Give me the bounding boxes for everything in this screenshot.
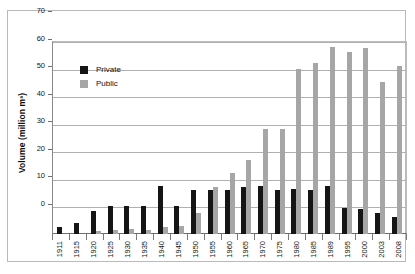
x-tick-mark [272, 234, 289, 240]
bar-public[interactable] [363, 48, 368, 234]
x-tick-label: 1950 [192, 241, 200, 258]
bar-group[interactable] [255, 41, 272, 234]
x-label-cell: 1935 [137, 241, 154, 271]
x-label-cell: 1960 [221, 241, 238, 271]
legend-item[interactable]: Public [80, 78, 121, 90]
bar-group[interactable] [338, 41, 355, 234]
x-tick-label: 1935 [141, 241, 149, 258]
bar-group[interactable] [204, 41, 221, 234]
x-tick-mark [356, 234, 373, 240]
y-tick-label-30: 30 [37, 118, 45, 126]
bar-group[interactable] [322, 41, 339, 234]
x-axis-labels: 1911191519201925193019351940194519501955… [52, 241, 407, 271]
x-tick-mark [205, 234, 222, 240]
x-tick-label: 1975 [276, 241, 284, 258]
bar-group[interactable] [238, 41, 255, 234]
chart-legend: PrivatePublic [80, 64, 121, 92]
bar-public[interactable] [296, 69, 301, 234]
x-tick-mark [373, 234, 390, 240]
bar-private[interactable] [57, 227, 62, 234]
bar-public[interactable] [179, 226, 184, 234]
bar-group[interactable] [388, 41, 405, 234]
legend-label: Private [96, 66, 121, 74]
x-tick-label: 1915 [74, 241, 82, 258]
bar-public[interactable] [280, 129, 285, 234]
legend-swatch-private [80, 66, 88, 74]
bar-group[interactable] [271, 41, 288, 234]
x-tick-label: 2000 [361, 241, 369, 258]
x-label-cell: 1965 [238, 241, 255, 271]
x-tick-label: 2008 [395, 241, 403, 258]
x-label-cell: 1940 [153, 241, 170, 271]
x-label-cell: 1915 [69, 241, 86, 271]
bar-group[interactable] [171, 41, 188, 234]
x-tick-mark [255, 234, 272, 240]
x-label-cell: 1925 [103, 241, 120, 271]
bar-group[interactable] [54, 41, 71, 234]
legend-label: Public [96, 80, 118, 88]
bar-public[interactable] [163, 227, 168, 234]
chart-figure: Volume (million m³) 010203040506070 1911… [0, 0, 415, 274]
x-label-cell: 2000 [356, 241, 373, 271]
x-tick-mark [87, 234, 104, 240]
x-tick-label: 1925 [107, 241, 115, 258]
x-tick-mark [171, 234, 188, 240]
x-label-cell: 2003 [373, 241, 390, 271]
chart-frame: Volume (million m³) 010203040506070 1911… [7, 10, 406, 262]
x-label-cell: 1970 [255, 241, 272, 271]
x-tick-label: 1911 [57, 241, 65, 257]
bar-group[interactable] [138, 41, 155, 234]
x-label-cell: 1955 [204, 241, 221, 271]
x-tick-label: 1965 [243, 241, 251, 258]
x-tick-label: 1940 [158, 241, 166, 258]
x-tick-mark [52, 234, 70, 240]
x-label-cell: 1920 [86, 241, 103, 271]
y-axis-labels: 010203040506070 [8, 11, 52, 261]
x-tick-label: 1920 [91, 241, 99, 258]
bar-group[interactable] [154, 41, 171, 234]
x-label-cell: 1980 [289, 241, 306, 271]
x-tick-label: 1989 [327, 241, 335, 258]
x-tick-label: 1930 [124, 241, 132, 258]
x-label-cell: 1950 [187, 241, 204, 271]
bar-group[interactable] [305, 41, 322, 234]
y-tick-label-60: 60 [37, 35, 45, 43]
bar-public[interactable] [330, 47, 335, 234]
x-tick-mark [323, 234, 340, 240]
x-tick-mark [104, 234, 121, 240]
x-tick-mark [222, 234, 239, 240]
bar-public[interactable] [196, 213, 201, 234]
x-tick-label: 1995 [344, 241, 352, 258]
x-label-cell: 2008 [390, 241, 407, 271]
x-axis-ticks [52, 234, 407, 241]
bar-public[interactable] [380, 82, 385, 234]
bar-group[interactable] [188, 41, 205, 234]
y-tick-label-0: 0 [41, 200, 45, 208]
bar-public[interactable] [313, 63, 318, 234]
y-tick-label-10: 10 [37, 173, 45, 181]
x-tick-label: 1985 [310, 241, 318, 258]
bar-public[interactable] [213, 187, 218, 234]
x-tick-mark [154, 234, 171, 240]
bar-group[interactable] [121, 41, 138, 234]
x-tick-mark [238, 234, 255, 240]
x-label-cell: 1985 [306, 241, 323, 271]
bar-public[interactable] [347, 52, 352, 234]
bar-public[interactable] [246, 160, 251, 234]
bar-group[interactable] [372, 41, 389, 234]
x-tick-mark [70, 234, 87, 240]
legend-item[interactable]: Private [80, 64, 121, 76]
x-label-cell: 1989 [323, 241, 340, 271]
x-tick-mark [188, 234, 205, 240]
bar-group[interactable] [221, 41, 238, 234]
bar-private[interactable] [74, 223, 79, 234]
bar-group[interactable] [288, 41, 305, 234]
x-label-cell: 1945 [170, 241, 187, 271]
y-tick-mark-70 [48, 11, 52, 12]
bar-group[interactable] [355, 41, 372, 234]
y-tick-mark-60 [48, 39, 52, 40]
bar-public[interactable] [230, 173, 235, 234]
bar-public[interactable] [263, 129, 268, 234]
y-tick-label-50: 50 [37, 62, 45, 70]
bar-public[interactable] [397, 66, 402, 234]
